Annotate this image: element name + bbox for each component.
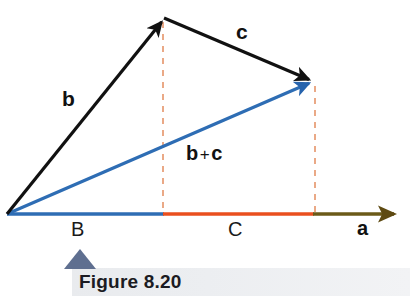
vector-b	[7, 22, 162, 214]
vector-label-b-plus-c: b+c	[186, 143, 223, 163]
vector-label-b-plus-c-operator: +	[199, 145, 211, 164]
figure-caption: Figure 8.20	[79, 272, 182, 291]
axis-segment-label-C: C	[228, 219, 242, 239]
figure-container: b c b+c B C a Figure 8.20	[0, 0, 410, 296]
axis-label-a: a	[357, 218, 368, 238]
vector-label-b: b	[62, 88, 75, 109]
triangle-marker-icon	[64, 249, 96, 269]
vector-label-b-plus-c-right: c	[211, 142, 223, 164]
vector-label-c: c	[236, 21, 248, 42]
vector-b-plus-c	[7, 83, 309, 214]
vector-label-b-plus-c-left: b	[186, 142, 199, 164]
axis-segment-label-B: B	[71, 219, 84, 239]
